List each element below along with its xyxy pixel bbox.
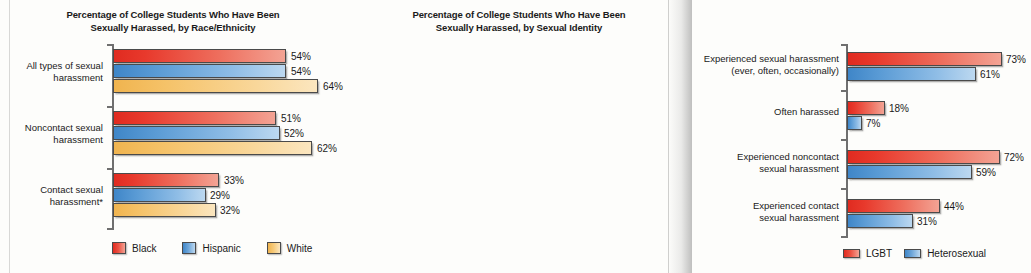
bar-value-label: 52% <box>284 128 304 139</box>
bar-value-label: 31% <box>917 216 937 227</box>
bar-value-label: 54% <box>291 66 311 77</box>
legend-item-lgbt[interactable]: LGBT <box>843 248 892 259</box>
bar-value-label: 64% <box>323 81 343 92</box>
category-label: All types of sexual harassment <box>0 60 103 84</box>
bar-heterosexual-contact[interactable] <box>847 214 913 228</box>
bar-black-all-types[interactable] <box>113 49 286 63</box>
axis-tick <box>107 106 113 108</box>
legend-item-heterosexual[interactable]: Heterosexual <box>904 248 986 259</box>
plot-area-identity: Experienced sexual harassment (ever, oft… <box>846 44 1031 238</box>
bar-value-label: 29% <box>210 190 230 201</box>
legend-label: White <box>287 243 313 254</box>
axis-tick <box>107 168 113 170</box>
category-label: Contact sexual harassment* <box>0 184 103 208</box>
bar-value-label: 33% <box>224 175 244 186</box>
bar-value-label: 59% <box>976 167 996 178</box>
legend-swatch-icon <box>267 242 281 254</box>
chart-race-title-line1: Percentage of College Students Who Have … <box>66 9 279 20</box>
bar-hispanic-noncontact[interactable] <box>113 126 280 140</box>
bar-value-label: 73% <box>1006 54 1026 65</box>
category-label: Experienced noncontact sexual harassment <box>679 151 839 175</box>
legend-swatch-icon <box>904 249 921 258</box>
chart-race-ethnicity: Percentage of College Students Who Have … <box>0 0 346 273</box>
axis-tick <box>107 228 113 230</box>
legend-race: Black Hispanic White <box>112 242 338 254</box>
axis-tick <box>841 139 847 141</box>
bar-value-label: 72% <box>1004 152 1024 163</box>
legend-label: Hispanic <box>202 243 240 254</box>
bar-black-noncontact[interactable] <box>113 111 276 125</box>
chart-race-title-line2: Sexually Harassed, by Race/Ethnicity <box>0 21 346 34</box>
bar-value-label: 18% <box>889 103 909 114</box>
bar-black-contact[interactable] <box>113 173 219 187</box>
bar-value-label: 61% <box>980 69 1000 80</box>
bar-value-label: 32% <box>220 205 240 216</box>
bar-value-label: 62% <box>317 143 337 154</box>
axis-tick <box>841 188 847 190</box>
bar-hispanic-all-types[interactable] <box>113 64 286 78</box>
category-label: Noncontact sexual harassment <box>0 122 103 146</box>
bar-white-contact[interactable] <box>113 203 216 217</box>
legend-swatch-icon <box>112 242 126 254</box>
bar-hispanic-contact[interactable] <box>113 188 206 202</box>
legend-item-white[interactable]: White <box>267 242 313 254</box>
legend-identity: LGBT Heterosexual <box>843 248 998 259</box>
plot-area-race: All types of sexual harassment 54% 54% 6… <box>112 44 337 230</box>
category-label: Experienced sexual harassment (ever, oft… <box>679 53 839 77</box>
axis-tick <box>841 236 847 238</box>
bar-lgbt-experienced[interactable] <box>847 52 1002 66</box>
chart-identity-title: Percentage of College Students Who Have … <box>346 8 692 34</box>
bar-value-label: 54% <box>291 51 311 62</box>
chart-sexual-identity: Percentage of College Students Who Have … <box>346 0 692 273</box>
chart-identity-title-line2: Sexually Harassed, by Sexual Identity <box>346 21 692 34</box>
legend-label: Black <box>132 243 156 254</box>
axis-tick <box>107 44 113 46</box>
chart-identity-title-line1: Percentage of College Students Who Have … <box>412 9 625 20</box>
chart-race-title: Percentage of College Students Who Have … <box>0 8 346 34</box>
legend-item-black[interactable]: Black <box>112 242 156 254</box>
bar-heterosexual-often[interactable] <box>847 116 862 130</box>
bar-white-all-types[interactable] <box>113 79 318 93</box>
legend-swatch-icon <box>843 249 860 258</box>
bar-heterosexual-experienced[interactable] <box>847 67 976 81</box>
category-label: Experienced contact sexual harassment <box>679 200 839 224</box>
legend-item-hispanic[interactable]: Hispanic <box>182 242 240 254</box>
bar-lgbt-contact[interactable] <box>847 199 940 213</box>
bar-heterosexual-noncontact[interactable] <box>847 165 972 179</box>
bar-value-label: 44% <box>944 201 964 212</box>
legend-label: Heterosexual <box>927 248 986 259</box>
bar-value-label: 51% <box>281 113 301 124</box>
bar-lgbt-often[interactable] <box>847 101 885 115</box>
bar-lgbt-noncontact[interactable] <box>847 150 1000 164</box>
legend-swatch-icon <box>182 242 196 254</box>
category-label: Often harassed <box>679 106 839 118</box>
axis-tick <box>841 90 847 92</box>
bar-value-label: 7% <box>866 118 880 129</box>
legend-label: LGBT <box>866 248 892 259</box>
axis-tick <box>841 44 847 46</box>
bar-white-noncontact[interactable] <box>113 141 312 155</box>
